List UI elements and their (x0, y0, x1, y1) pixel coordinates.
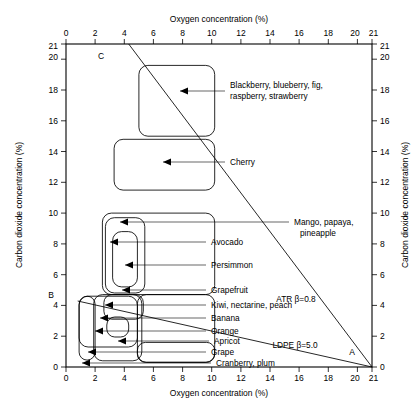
x-axis-top-ticks (66, 39, 372, 44)
x-bot-tick-14: 14 (265, 373, 275, 383)
label-apricot: Apricot (214, 336, 241, 346)
label-mango-line1: Mango, papaya, (294, 217, 354, 227)
y-left-tick-4: 4 (53, 300, 58, 310)
arrowhead-icon (163, 159, 171, 166)
arrowhead-icon (180, 88, 188, 95)
arrowhead-icon (125, 262, 133, 269)
x-top-tick-21: 21 (369, 28, 379, 38)
label-cherry: Cherry (230, 157, 256, 167)
y-left-tick-20: 20 (49, 52, 59, 62)
x-bot-tick-16: 16 (294, 373, 304, 383)
x-axis-bottom-labels: 0 2 4 6 8 10 12 14 16 18 20 21 (64, 373, 379, 383)
y-right-tick-4: 4 (380, 300, 385, 310)
label-grape: Grape (211, 347, 234, 357)
y-right-tick-12: 12 (380, 177, 390, 187)
annotation-grape (88, 349, 206, 356)
x-top-tick-10: 10 (207, 28, 217, 38)
y-left-tick-18: 18 (49, 85, 59, 95)
y-axis-right-ticks (372, 44, 377, 367)
y-left-tick-12: 12 (49, 177, 59, 187)
x-bot-tick-8: 8 (180, 373, 185, 383)
x-top-tick-14: 14 (265, 28, 275, 38)
x-axis-top-title: Oxygen concentration (%) (170, 14, 268, 24)
y-left-tick-8: 8 (53, 239, 58, 249)
y-right-tick-6: 6 (380, 270, 385, 280)
y-right-tick-10: 10 (380, 208, 390, 218)
x-bot-tick-18: 18 (324, 373, 334, 383)
x-axis-top-labels: 0 2 4 6 8 10 12 14 16 18 20 21 (64, 28, 379, 38)
y-axis-left-title: Carbon dioxide concentration (%) (14, 142, 24, 268)
annotation-apricot (118, 338, 209, 345)
box-cherry (114, 139, 215, 190)
x-top-tick-16: 16 (294, 28, 304, 38)
annotation-grapefruit (122, 287, 206, 294)
arrowhead-icon (118, 338, 126, 345)
x-bot-tick-10: 10 (207, 373, 217, 383)
point-c-label: C (98, 51, 104, 61)
annotation-berries (180, 88, 225, 95)
x-top-tick-0: 0 (64, 28, 69, 38)
y-right-tick-18: 18 (380, 85, 390, 95)
annotation-kiwi (105, 302, 206, 309)
y-left-tick-21: 21 (49, 41, 59, 51)
label-ldpe-beta: LDPE β=5.0 (272, 340, 318, 350)
x-top-tick-20: 20 (350, 28, 360, 38)
y-axis-left-ticks (61, 44, 66, 367)
label-cranberry: Cranberry, plum (216, 358, 275, 368)
x-top-tick-18: 18 (324, 28, 334, 38)
label-banana: Banana (211, 313, 240, 323)
x-top-tick-4: 4 (122, 28, 127, 38)
box-banana (107, 317, 129, 337)
label-berries-line1: Blackberry, blueberry, fig, (230, 80, 323, 90)
arrowhead-icon (122, 287, 130, 294)
y-left-tick-0: 0 (53, 362, 58, 372)
y-right-tick-2: 2 (380, 331, 385, 341)
box-cranberry-plum (137, 342, 214, 362)
y-axis-right-labels: 0 2 4 6 8 10 12 14 16 18 20 21 (380, 41, 390, 373)
x-bot-tick-20: 20 (350, 373, 360, 383)
label-atr-beta: ATR β=0.8 (276, 294, 316, 304)
annotation-banana (100, 315, 206, 322)
chart-svg: 0 2 4 6 8 10 12 14 16 18 20 21 Oxygen co… (0, 0, 417, 416)
box-avocado (105, 218, 144, 293)
annotation-mango (120, 219, 289, 226)
box-mango-papaya-pineapple (102, 213, 214, 295)
y-left-tick-16: 16 (49, 116, 59, 126)
annotation-avocado (110, 239, 206, 246)
x-top-tick-8: 8 (180, 28, 185, 38)
y-right-tick-0: 0 (380, 362, 385, 372)
label-berries-line2: raspberry, strawberry (230, 91, 309, 101)
y-right-tick-14: 14 (380, 147, 390, 157)
point-a-label: A (349, 347, 355, 357)
label-avocado: Avocado (211, 237, 244, 247)
arrowhead-icon (120, 219, 128, 226)
arrowhead-icon (100, 315, 108, 322)
x-bot-tick-21: 21 (369, 373, 379, 383)
x-bot-tick-12: 12 (236, 373, 246, 383)
x-top-tick-12: 12 (236, 28, 246, 38)
label-grapefruit: Grapefruit (211, 285, 249, 295)
y-left-tick-6: 6 (53, 270, 58, 280)
x-bot-tick-4: 4 (122, 373, 127, 383)
box-apricot (94, 295, 142, 361)
y-left-tick-10: 10 (49, 208, 59, 218)
x-top-tick-6: 6 (151, 28, 156, 38)
y-axis-right-title: Carbon dioxide concentration (%) (400, 142, 410, 268)
x-bot-tick-6: 6 (151, 373, 156, 383)
x-bot-tick-0: 0 (64, 373, 69, 383)
y-right-tick-20: 20 (380, 52, 390, 62)
box-blackberry-blueberry-fig-raspberry-strawberry (139, 65, 215, 136)
label-mango-line2: pineapple (300, 228, 336, 238)
y-right-tick-8: 8 (380, 239, 385, 249)
point-b-label: B (48, 290, 54, 300)
label-orange: Orange (211, 326, 239, 336)
x-top-tick-2: 2 (93, 28, 98, 38)
annotation-orange (95, 328, 206, 335)
arrowhead-icon (110, 239, 118, 246)
x-axis-bottom-title: Oxygen concentration (%) (170, 388, 268, 398)
arrowhead-icon (95, 328, 103, 335)
y-right-tick-16: 16 (380, 116, 390, 126)
y-left-tick-2: 2 (53, 331, 58, 341)
arrowhead-icon (82, 360, 90, 367)
label-persimmon: Persimmon (211, 260, 253, 270)
